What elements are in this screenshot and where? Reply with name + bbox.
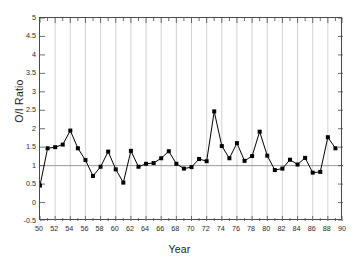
x-tick-label: 88: [323, 224, 331, 233]
data-point: [296, 163, 300, 167]
x-tick-label: 74: [217, 224, 225, 233]
x-tick-label: 80: [262, 224, 270, 233]
data-point: [106, 150, 110, 154]
x-tick-label: 78: [247, 224, 255, 233]
data-point: [273, 168, 277, 172]
x-tick-label: 60: [111, 224, 119, 233]
data-point: [227, 156, 231, 160]
data-point: [258, 130, 262, 134]
chart-figure: O/I Ratio Year -0.500.511.522.533.544.55…: [0, 0, 359, 263]
plot-area: [39, 17, 342, 220]
x-tick-label: 84: [293, 224, 301, 233]
data-point: [144, 162, 148, 166]
data-point: [129, 149, 133, 153]
data-point: [83, 158, 87, 162]
data-point: [159, 156, 163, 160]
data-point: [303, 156, 307, 160]
data-point: [326, 135, 330, 139]
data-point: [99, 165, 103, 169]
data-point: [235, 141, 239, 145]
data-point: [152, 161, 156, 165]
gridlines: [55, 18, 328, 221]
data-point: [91, 174, 95, 178]
data-point: [40, 184, 42, 188]
data-point: [280, 167, 284, 171]
data-point: [205, 159, 209, 163]
data-point: [190, 165, 194, 169]
data-point: [311, 171, 315, 175]
data-point: [288, 158, 292, 162]
data-point: [114, 167, 118, 171]
data-point: [243, 159, 247, 163]
x-tick-label: 56: [80, 224, 88, 233]
data-point: [212, 109, 216, 113]
data-point: [53, 145, 57, 149]
data-point: [121, 181, 125, 185]
x-tick-label: 76: [232, 224, 240, 233]
data-point: [318, 170, 322, 174]
data-point: [68, 129, 72, 133]
data-point: [136, 165, 140, 169]
x-tick-label: 68: [171, 224, 179, 233]
x-tick-label: 66: [156, 224, 164, 233]
x-tick-label: 86: [308, 224, 316, 233]
data-point: [167, 149, 171, 153]
x-tick-label: 82: [277, 224, 285, 233]
x-tick-label: 58: [96, 224, 104, 233]
x-tick-label: 54: [65, 224, 73, 233]
data-point: [46, 146, 50, 150]
data-point: [174, 162, 178, 166]
x-tick-label: 90: [338, 224, 346, 233]
data-point: [265, 154, 269, 158]
data-point: [197, 157, 201, 161]
data-point: [250, 154, 254, 158]
data-point: [61, 143, 65, 147]
data-point: [76, 146, 80, 150]
x-tick-label: 64: [141, 224, 149, 233]
x-tick-label: 62: [126, 224, 134, 233]
data-line: [40, 111, 335, 185]
data-markers: [40, 109, 337, 187]
series-canvas: [40, 18, 343, 221]
data-point: [333, 146, 337, 150]
x-tick-label: 50: [35, 224, 43, 233]
data-point: [182, 167, 186, 171]
x-tick-label: 72: [202, 224, 210, 233]
x-tick-label: 70: [187, 224, 195, 233]
x-tick-label: 52: [50, 224, 58, 233]
data-point: [220, 144, 224, 148]
